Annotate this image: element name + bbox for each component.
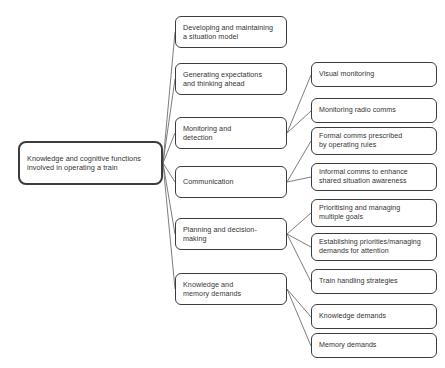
node-prioritising-managing-goals[interactable]: Prioritising and managing multiple goals: [311, 199, 437, 227]
node-knowledge-memory-demands-label: Knowledge and memory demands: [183, 280, 279, 298]
connector-communication-to-informal-comms: [287, 177, 311, 182]
node-informal-comms[interactable]: Informal comms to enhance shared situati…: [311, 163, 437, 191]
connector-planning-decision-making-to-prioritising-managing-goals: [287, 213, 311, 234]
connector-root-to-communication: [163, 163, 175, 182]
node-root-label: Knowledge and cognitive functions involv…: [27, 154, 154, 173]
node-monitoring-detection[interactable]: Monitoring and detection: [175, 117, 287, 149]
node-planning-decision-making-label: Planning and decision- making: [183, 225, 279, 243]
node-monitoring-detection-label: Monitoring and detection: [183, 124, 279, 142]
node-developing-situation-model[interactable]: Developing and maintaining a situation m…: [175, 16, 287, 48]
node-generating-expectations-label: Generating expectations and thinking ahe…: [183, 70, 279, 88]
connector-communication-to-formal-comms: [287, 141, 311, 182]
node-formal-comms-label: Formal comms prescribed by operating rul…: [319, 132, 429, 150]
connector-root-to-developing-situation-model: [163, 32, 175, 163]
node-prioritising-managing-goals-label: Prioritising and managing multiple goals: [319, 204, 429, 222]
node-formal-comms[interactable]: Formal comms prescribed by operating rul…: [311, 127, 437, 155]
node-generating-expectations[interactable]: Generating expectations and thinking ahe…: [175, 63, 287, 95]
node-train-handling-strategies-label: Train handling strategies: [319, 277, 429, 286]
connector-knowledge-memory-demands-to-memory-demands: [287, 289, 311, 346]
connector-root-to-monitoring-detection: [163, 133, 175, 163]
node-knowledge-memory-demands[interactable]: Knowledge and memory demands: [175, 273, 287, 305]
node-communication-label: Communication: [183, 177, 279, 186]
connector-planning-decision-making-to-train-handling-strategies: [287, 234, 311, 282]
node-train-handling-strategies[interactable]: Train handling strategies: [311, 269, 437, 294]
node-visual-monitoring-label: Visual monitoring: [319, 70, 429, 79]
node-monitoring-radio-comms[interactable]: Monitoring radio comms: [311, 98, 437, 123]
connector-monitoring-detection-to-visual-monitoring: [287, 75, 311, 133]
connector-monitoring-detection-to-monitoring-radio-comms: [287, 111, 311, 133]
node-developing-situation-model-label: Developing and maintaining a situation m…: [183, 23, 279, 41]
connector-root-to-knowledge-memory-demands: [163, 163, 175, 289]
connector-knowledge-memory-demands-to-knowledge-demands: [287, 289, 311, 317]
node-visual-monitoring[interactable]: Visual monitoring: [311, 62, 437, 87]
node-establishing-priorities-label: Establishing priorities/managing demands…: [319, 238, 429, 256]
node-establishing-priorities[interactable]: Establishing priorities/managing demands…: [311, 233, 437, 261]
connector-root-to-planning-decision-making: [163, 163, 175, 234]
connector-root-to-generating-expectations: [163, 79, 175, 163]
node-monitoring-radio-comms-label: Monitoring radio comms: [319, 106, 429, 115]
node-knowledge-demands-label: Knowledge demands: [319, 312, 429, 321]
node-memory-demands-label: Memory demands: [319, 341, 429, 350]
node-memory-demands[interactable]: Memory demands: [311, 333, 437, 358]
node-root[interactable]: Knowledge and cognitive functions involv…: [18, 141, 163, 185]
node-informal-comms-label: Informal comms to enhance shared situati…: [319, 168, 429, 186]
diagram-canvas: Knowledge and cognitive functions involv…: [0, 0, 445, 368]
connector-planning-decision-making-to-establishing-priorities: [287, 234, 311, 247]
node-planning-decision-making[interactable]: Planning and decision- making: [175, 218, 287, 250]
node-communication[interactable]: Communication: [175, 166, 287, 198]
node-knowledge-demands[interactable]: Knowledge demands: [311, 304, 437, 329]
